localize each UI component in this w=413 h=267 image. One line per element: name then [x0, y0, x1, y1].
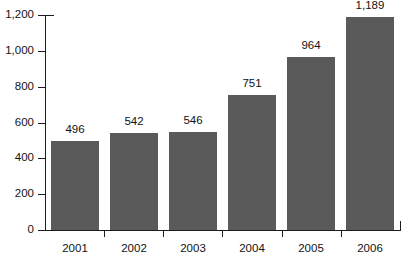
y-axis-tick-label: 800	[0, 81, 34, 93]
bar-value-label: 1,189	[335, 0, 405, 12]
bar	[228, 95, 276, 230]
x-axis-tick	[222, 231, 223, 237]
bar-chart: 02004006008001,0001,200 4965425467519641…	[0, 0, 413, 267]
x-axis-category-label: 2003	[163, 243, 223, 255]
y-axis-tick-label: 200	[0, 188, 34, 200]
y-axis-tick-label: 1,000	[0, 45, 34, 57]
bar-value-label: 751	[217, 78, 287, 90]
bar	[51, 141, 99, 230]
bar	[346, 17, 394, 230]
x-axis-tick	[104, 231, 105, 237]
bar-value-label: 546	[158, 115, 228, 127]
bar	[287, 57, 335, 230]
x-axis-tick	[163, 231, 164, 237]
x-axis-category-label: 2002	[104, 243, 164, 255]
y-axis-tick	[38, 51, 46, 52]
bar-value-label: 964	[276, 40, 346, 52]
y-axis-tick	[38, 194, 46, 195]
x-axis-tick	[282, 231, 283, 237]
y-axis-tick-label: 1,200	[0, 9, 34, 21]
axis-top-corner	[45, 15, 54, 16]
x-axis-category-label: 2006	[340, 243, 400, 255]
y-axis-tick	[38, 158, 46, 159]
y-axis-tick	[38, 87, 46, 88]
x-axis-line	[45, 230, 401, 231]
y-axis-tick	[38, 230, 46, 231]
x-axis-tick	[341, 231, 342, 237]
x-axis-category-label: 2005	[281, 243, 341, 255]
bar	[110, 133, 158, 230]
axis-right-corner	[400, 221, 401, 231]
bar	[169, 132, 217, 230]
x-axis-category-label: 2004	[222, 243, 282, 255]
y-axis-tick-label: 0	[0, 224, 34, 236]
y-axis-tick-label: 400	[0, 152, 34, 164]
x-axis-category-label: 2001	[45, 243, 105, 255]
y-axis-tick-label: 600	[0, 117, 34, 129]
y-axis-tick	[38, 15, 46, 16]
